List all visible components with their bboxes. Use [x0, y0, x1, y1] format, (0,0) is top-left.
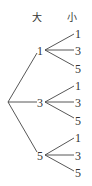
node-5: 5: [37, 149, 43, 163]
tree-svg: 大 小 1 1 3 5 3 1 3 5 5 1 3 5: [0, 0, 92, 186]
tree-diagram: 大 小 1 1 3 5 3 1 3 5 5 1 3 5: [0, 0, 92, 186]
leaf-3-3: 3: [75, 96, 81, 110]
node-3: 3: [37, 96, 43, 110]
leaf-3-5: 5: [75, 114, 81, 128]
leaf-5-5: 5: [75, 166, 81, 180]
leaf-1-1: 1: [75, 27, 81, 41]
edge-1-5: [45, 50, 74, 66]
header-big: 大: [32, 11, 42, 23]
leaf-3-1: 1: [75, 79, 81, 93]
leaf-1-5: 5: [75, 62, 81, 76]
edge-5-5: [45, 155, 74, 171]
leaf-1-3: 3: [75, 44, 81, 58]
edge-3-1: [45, 86, 74, 102]
edge-root-5: [8, 102, 37, 152]
edge-5-1: [45, 138, 74, 155]
edge-1-1: [45, 34, 74, 50]
leaf-5-3: 3: [75, 149, 81, 163]
header-small: 小: [67, 12, 77, 23]
edge-root-1: [8, 53, 37, 102]
leaf-5-1: 1: [75, 131, 81, 145]
node-1: 1: [37, 44, 43, 58]
edge-3-5: [45, 102, 74, 118]
